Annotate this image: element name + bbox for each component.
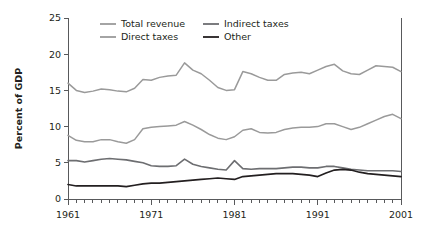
y-axis-title: Percent of GDP [13, 68, 24, 149]
y-tick-label-10: 10 [49, 121, 61, 132]
y-tick-label-5: 5 [55, 157, 61, 168]
x-tick-label-1991: 1991 [306, 209, 330, 220]
series-line-total-revenue [68, 63, 401, 93]
y-tick-label-0: 0 [55, 193, 61, 204]
revenue-line-chart: 051015202519611971198119912001Percent of… [0, 0, 430, 239]
x-tick-label-1971: 1971 [139, 209, 163, 220]
series-line-direct-taxes [68, 114, 401, 143]
legend-label-direct-taxes: Direct taxes [121, 31, 178, 42]
x-tick-label-2001: 2001 [389, 209, 413, 220]
x-tick-label-1981: 1981 [222, 209, 246, 220]
y-tick-label-25: 25 [49, 12, 61, 23]
chart-figure: 051015202519611971198119912001Percent of… [0, 0, 430, 239]
legend-label-total-revenue: Total revenue [120, 18, 185, 29]
y-tick-label-15: 15 [49, 85, 61, 96]
legend-label-other: Other [224, 31, 251, 42]
series-line-other [68, 169, 401, 186]
y-tick-label-20: 20 [49, 49, 61, 60]
legend-label-indirect-taxes: Indirect taxes [224, 18, 289, 29]
x-tick-label-1961: 1961 [56, 209, 80, 220]
